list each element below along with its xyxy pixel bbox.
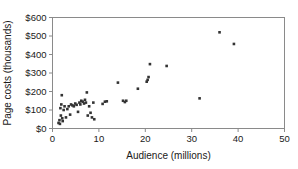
data-point: [60, 103, 63, 106]
y-tick-label: $0: [36, 123, 47, 134]
data-point: [89, 111, 92, 114]
data-point: [146, 79, 149, 82]
y-tick-label: $400: [25, 49, 46, 60]
data-point: [137, 87, 140, 90]
data-point: [93, 118, 96, 121]
data-point: [165, 65, 168, 68]
data-point: [61, 117, 64, 120]
data-point: [198, 97, 201, 100]
y-axis-ticks: [49, 18, 53, 129]
x-tick-label: 10: [94, 133, 105, 144]
x-axis-title: Audience (millions): [126, 150, 210, 161]
data-point: [58, 119, 61, 122]
data-point: [77, 111, 80, 114]
scatter-chart: $0$100$200$300$400$500$600 01020304050 P…: [0, 0, 298, 169]
data-point: [85, 101, 88, 104]
data-point: [59, 107, 62, 110]
data-point: [66, 108, 69, 111]
x-tick-label: 50: [279, 133, 290, 144]
chart-canvas: $0$100$200$300$400$500$600 01020304050 P…: [0, 0, 298, 169]
data-point: [63, 105, 66, 108]
data-point: [79, 103, 82, 106]
y-tick-label: $300: [25, 67, 46, 78]
data-point: [69, 113, 72, 116]
x-axis-ticks: [53, 129, 285, 133]
plot-frame: [53, 18, 285, 129]
data-point: [61, 120, 64, 123]
data-point: [149, 63, 152, 66]
data-point: [125, 99, 128, 102]
y-tick-label: $600: [25, 12, 46, 23]
data-point: [147, 76, 150, 79]
x-axis-tick-labels: 01020304050: [50, 133, 290, 144]
data-point: [75, 104, 78, 107]
data-point: [117, 81, 120, 84]
y-axis-tick-labels: $0$100$200$300$400$500$600: [25, 12, 46, 134]
y-tick-label: $100: [25, 104, 46, 115]
data-point: [218, 31, 221, 34]
data-point: [88, 105, 91, 108]
data-point: [233, 43, 236, 46]
data-point: [65, 116, 68, 119]
data-point: [60, 94, 63, 97]
data-point: [84, 99, 87, 102]
y-axis-title: Page costs (thousands): [2, 20, 13, 125]
data-point: [101, 103, 104, 106]
data-point: [60, 114, 63, 117]
data-point: [59, 123, 62, 126]
data-point: [91, 116, 94, 119]
data-point: [105, 100, 108, 103]
x-tick-label: 30: [186, 133, 197, 144]
x-tick-label: 20: [140, 133, 151, 144]
x-tick-label: 0: [50, 133, 55, 144]
data-point: [86, 114, 89, 117]
data-point: [67, 105, 70, 108]
data-point-series: [57, 31, 235, 125]
data-point: [92, 101, 95, 104]
y-tick-label: $200: [25, 86, 46, 97]
x-tick-label: 40: [233, 133, 244, 144]
data-point: [62, 109, 65, 112]
y-tick-label: $500: [25, 30, 46, 41]
data-point: [73, 105, 76, 108]
data-point: [86, 91, 89, 94]
